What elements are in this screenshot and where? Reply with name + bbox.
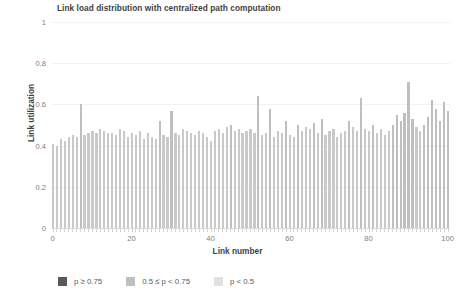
bar: [313, 123, 315, 228]
bar: [447, 111, 449, 228]
bar: [143, 139, 145, 228]
bar: [194, 135, 196, 228]
bar: [439, 121, 441, 228]
chart-title: Link load distribution with centralized …: [57, 3, 281, 13]
x-minor-tick: [444, 229, 445, 232]
x-minor-tick: [151, 229, 152, 232]
x-minor-tick: [309, 229, 310, 232]
x-minor-tick: [448, 229, 449, 232]
bar: [384, 135, 386, 228]
y-axis-tick-labels: 00.20.40.60.81: [0, 22, 46, 228]
bar: [210, 141, 212, 228]
bar: [309, 129, 311, 228]
x-minor-tick: [203, 229, 204, 232]
x-minor-tick: [100, 229, 101, 232]
x-minor-tick: [211, 229, 212, 232]
x-minor-tick: [274, 229, 275, 232]
x-minor-tick: [404, 229, 405, 232]
x-minor-tick: [392, 229, 393, 232]
bar-series: [51, 22, 450, 228]
x-minor-tick: [187, 229, 188, 232]
legend-label: p ≥ 0.75: [74, 277, 102, 286]
bar: [411, 119, 413, 228]
chart-legend: p ≥ 0.750.5 ≤ p < 0.75p < 0.5: [58, 274, 278, 288]
x-minor-tick: [112, 229, 113, 232]
bar: [261, 135, 263, 228]
x-tick-label: 60: [285, 234, 293, 243]
bar: [123, 131, 125, 228]
x-minor-tick: [175, 229, 176, 232]
legend-swatch: [126, 277, 135, 286]
bar: [265, 133, 267, 228]
x-minor-tick: [384, 229, 385, 232]
x-minor-tick: [388, 229, 389, 232]
bar: [119, 129, 121, 228]
x-minor-tick: [167, 229, 168, 232]
x-minor-tick: [163, 229, 164, 232]
x-minor-tick: [135, 229, 136, 232]
bar: [415, 127, 417, 228]
x-minor-tick: [132, 229, 133, 232]
x-minor-tick: [412, 229, 413, 232]
bar: [301, 131, 303, 228]
x-minor-tick: [286, 229, 287, 232]
bar: [135, 135, 137, 228]
x-minor-tick: [234, 229, 235, 232]
bar: [407, 82, 409, 228]
x-minor-tick: [171, 229, 172, 232]
bar: [178, 135, 180, 228]
x-minor-tick: [333, 229, 334, 232]
bar: [222, 133, 224, 228]
x-minor-tick: [266, 229, 267, 232]
legend-item: 0.5 ≤ p < 0.75: [126, 277, 190, 286]
bar: [72, 135, 74, 228]
x-minor-tick: [376, 229, 377, 232]
x-minor-tick: [143, 229, 144, 232]
x-tick-label: 20: [127, 234, 135, 243]
bar: [230, 125, 232, 228]
x-minor-tick: [191, 229, 192, 232]
bar: [245, 131, 247, 228]
bar: [431, 100, 433, 228]
x-minor-tick: [424, 229, 425, 232]
bar: [151, 137, 153, 228]
x-minor-tick: [321, 229, 322, 232]
x-minor-tick: [254, 229, 255, 232]
x-minor-tick: [345, 229, 346, 232]
x-axis-tick-labels: 020406080100: [51, 229, 450, 247]
bar: [360, 98, 362, 228]
bar: [68, 137, 70, 228]
x-minor-tick: [68, 229, 69, 232]
y-tick-label: 1: [2, 18, 46, 27]
bar: [392, 125, 394, 228]
bar: [99, 129, 101, 228]
bar: [202, 133, 204, 228]
bar: [214, 131, 216, 228]
x-minor-tick: [301, 229, 302, 232]
bar: [159, 121, 161, 228]
x-minor-tick: [305, 229, 306, 232]
x-minor-tick: [242, 229, 243, 232]
x-minor-tick: [341, 229, 342, 232]
x-minor-tick: [222, 229, 223, 232]
plot-area: [51, 22, 450, 228]
bar: [155, 139, 157, 228]
x-minor-tick: [128, 229, 129, 232]
x-minor-tick: [80, 229, 81, 232]
bar: [403, 113, 405, 228]
bar: [182, 129, 184, 228]
bar: [281, 133, 283, 228]
x-minor-tick: [420, 229, 421, 232]
x-minor-tick: [96, 229, 97, 232]
x-minor-tick: [270, 229, 271, 232]
x-minor-tick: [432, 229, 433, 232]
bar: [166, 137, 168, 228]
bar: [80, 104, 82, 228]
x-minor-tick: [290, 229, 291, 232]
bar: [297, 125, 299, 228]
x-minor-tick: [258, 229, 259, 232]
x-minor-tick: [179, 229, 180, 232]
x-minor-tick: [84, 229, 85, 232]
x-minor-tick: [282, 229, 283, 232]
x-minor-tick: [353, 229, 354, 232]
